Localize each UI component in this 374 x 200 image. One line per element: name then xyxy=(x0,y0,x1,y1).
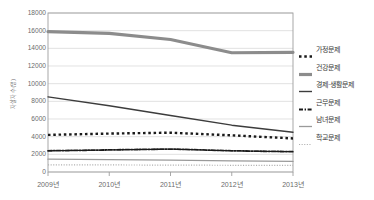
legend-label: 학교문제 xyxy=(316,134,340,141)
x-axis-tick-label: 2009년 xyxy=(37,179,59,189)
legend-label: 경제·생활문제 xyxy=(316,81,354,88)
chart-legend: 가정문제건강문제경제·생활문제근무문제남녀문제학교문제 xyxy=(299,41,374,146)
legend-swatch-icon xyxy=(299,116,312,123)
legend-label: 남녀문제 xyxy=(316,116,340,123)
legend-label: 가정문제 xyxy=(316,46,340,53)
legend-swatch-icon xyxy=(299,46,312,53)
legend-item[interactable]: 가정문제 xyxy=(299,41,374,59)
legend-line-sample xyxy=(299,141,312,148)
legend-item[interactable]: 남녀문제 xyxy=(299,111,374,129)
legend-line-sample xyxy=(299,53,312,60)
legend-item[interactable]: 학교문제 xyxy=(299,129,374,147)
legend-line-sample xyxy=(299,88,312,95)
legend-item[interactable]: 경제·생활문제 xyxy=(299,76,374,94)
legend-label: 건강문제 xyxy=(316,64,340,71)
x-axis-tick-label: 2013년 xyxy=(282,179,304,189)
legend-line-sample xyxy=(299,123,312,130)
legend-swatch-icon xyxy=(299,99,312,106)
legend-item[interactable]: 건강문제 xyxy=(299,59,374,77)
line-chart: 자살자 수(명) 0200040006000800010000120001400… xyxy=(0,0,374,200)
legend-swatch-icon xyxy=(299,81,312,88)
legend-item[interactable]: 근무문제 xyxy=(299,94,374,112)
legend-swatch-icon xyxy=(299,134,312,141)
legend-swatch-icon xyxy=(299,64,312,71)
legend-line-sample xyxy=(299,71,312,78)
legend-label: 근무문제 xyxy=(316,99,340,106)
legend-line-sample xyxy=(299,106,312,113)
x-axis-tick-label: 2010년 xyxy=(98,179,120,189)
x-axis-tick-label: 2012년 xyxy=(221,179,243,189)
x-axis-tick-label: 2011년 xyxy=(160,179,181,189)
